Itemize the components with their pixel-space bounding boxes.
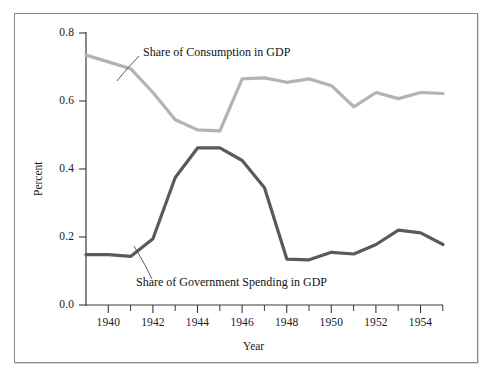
- annotation-government: Share of Government Spending in GDP: [136, 275, 327, 290]
- line-series-government: [86, 148, 443, 260]
- y-tick-label-0.2: 0.2: [44, 230, 74, 242]
- x-tick-label-1952: 1952: [356, 316, 396, 328]
- annotation-consumption: Share of Consumption in GDP: [143, 45, 290, 60]
- y-tick-label-0.0: 0.0: [44, 298, 74, 310]
- x-tick-label-1944: 1944: [178, 316, 218, 328]
- figure-container: 0.8 0.6 0.4 0.2 0.0 1940 1942 1944 1946 …: [0, 0, 502, 377]
- x-axis-ticks: [108, 305, 443, 313]
- x-tick-label-1954: 1954: [401, 316, 441, 328]
- y-tick-label-0.4: 0.4: [44, 162, 74, 174]
- y-axis-ticks: [79, 33, 86, 305]
- x-tick-label-1942: 1942: [133, 316, 173, 328]
- leader-line-consumption: [117, 56, 139, 81]
- y-tick-label-0.6: 0.6: [44, 94, 74, 106]
- line-series-consumption: [86, 55, 443, 131]
- x-tick-label-1940: 1940: [88, 316, 128, 328]
- x-axis-title: Year: [243, 340, 264, 352]
- x-tick-label-1946: 1946: [222, 316, 262, 328]
- x-tick-label-1948: 1948: [267, 316, 307, 328]
- y-axis-title: Percent: [32, 162, 44, 196]
- y-tick-label-0.8: 0.8: [44, 26, 74, 38]
- x-tick-label-1950: 1950: [311, 316, 351, 328]
